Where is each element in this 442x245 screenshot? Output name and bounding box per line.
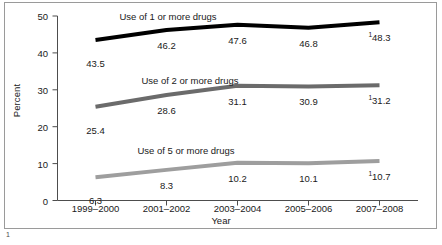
y-tick-label-20: 20 — [22, 122, 48, 133]
x-tick-label-3: 2003–2004 — [198, 203, 278, 214]
point-label-use-5-or-more-5: 110.7 — [358, 171, 402, 182]
y-tick-label-30: 30 — [22, 85, 48, 96]
series-label-use-5-or-more: Use of 5 or more drugs — [121, 145, 251, 156]
point-label-use-2-or-more-5: 131.2 — [358, 95, 402, 106]
x-tick-label-5: 2007–2008 — [340, 203, 420, 214]
y-tick-label-10: 10 — [22, 159, 48, 170]
y-tick-label-50: 50 — [22, 11, 48, 22]
x-tick-label-2: 2001–2002 — [127, 203, 207, 214]
chart-figure: Percent Year 50 40 30 20 10 0 1999–2000 … — [0, 0, 442, 245]
y-axis-ticks — [53, 16, 58, 201]
point-label-use-2-or-more-4: 30.9 — [287, 96, 331, 107]
point-label-use-1-or-more-3: 47.6 — [216, 35, 260, 46]
point-label-use-5-or-more-3: 10.2 — [216, 173, 260, 184]
point-label-use-1-or-more-1: 43.5 — [74, 58, 118, 69]
footnote-superscript: 1 — [368, 94, 372, 101]
point-label-use-1-or-more-4: 46.8 — [287, 38, 331, 49]
footnote-superscript: 1 — [368, 31, 372, 38]
point-label-use-5-or-more-2: 8.3 — [145, 180, 189, 191]
point-label-use-1-or-more-2: 46.2 — [145, 40, 189, 51]
y-axis-title: Percent — [11, 71, 22, 131]
point-label-use-5-or-more-1: 6.3 — [74, 195, 118, 206]
series-label-use-2-or-more: Use of 2 or more drugs — [125, 75, 255, 86]
point-label-use-5-or-more-4: 10.1 — [287, 173, 331, 184]
footnote-marker: 1 — [6, 231, 10, 238]
y-tick-label-40: 40 — [22, 48, 48, 59]
x-tick-label-4: 2005–2006 — [269, 203, 349, 214]
point-label-use-1-or-more-5: 148.3 — [358, 32, 402, 43]
footnote-superscript: 1 — [368, 170, 372, 177]
point-label-use-2-or-more-3: 31.1 — [216, 96, 260, 107]
point-label-use-2-or-more-2: 28.6 — [145, 105, 189, 116]
point-label-use-2-or-more-1: 25.4 — [74, 125, 118, 136]
y-tick-label-0: 0 — [22, 196, 48, 207]
series-label-use-1-or-more: Use of 1 or more drugs — [103, 11, 233, 22]
x-axis-title: Year — [0, 215, 442, 226]
